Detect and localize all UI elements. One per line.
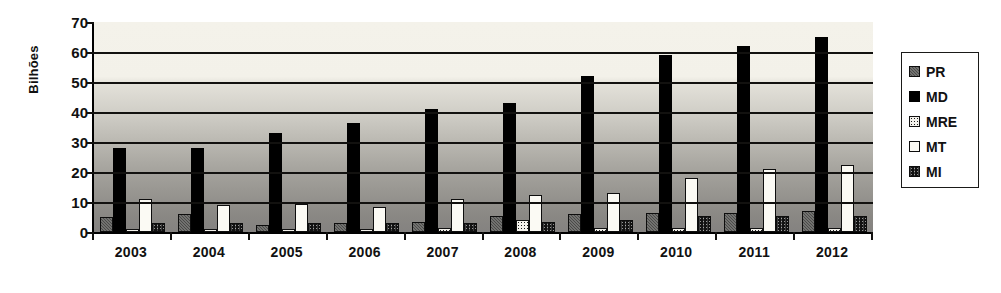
x-tick-mark (248, 232, 250, 240)
gridline (94, 172, 873, 174)
x-tick-mark (170, 232, 172, 240)
legend-label: MT (926, 140, 946, 154)
bar-mi-2007[interactable] (464, 223, 477, 232)
x-tick-mark (637, 232, 639, 240)
bar-md-2003[interactable] (113, 148, 126, 232)
bar-pr-2011[interactable] (724, 213, 737, 233)
bar-mi-2003[interactable] (152, 223, 165, 232)
y-tick-label: 20 (71, 165, 88, 180)
bar-pr-2006[interactable] (334, 223, 347, 232)
legend-label: MI (926, 165, 942, 179)
x-tick-mark (92, 232, 94, 240)
x-tick-mark (871, 232, 873, 240)
x-tick-mark (559, 232, 561, 240)
y-axis-title: Bilhões (26, 15, 41, 125)
y-tick-mark (87, 112, 94, 114)
bar-mt-2004[interactable] (217, 205, 230, 232)
x-tick-label: 2003 (92, 244, 170, 260)
y-tick-label: 60 (71, 45, 88, 60)
y-tick-label: 70 (71, 15, 88, 30)
x-axis-labels: 2003200420052006200720082009201020112012 (92, 244, 871, 260)
bar-md-2008[interactable] (503, 103, 516, 232)
legend-item-md[interactable]: MD (909, 84, 978, 109)
x-tick-label: 2009 (559, 244, 637, 260)
legend-swatch-icon (909, 166, 920, 177)
y-tick-label: 40 (71, 105, 88, 120)
y-tick-mark (87, 82, 94, 84)
x-tick-label: 2012 (793, 244, 871, 260)
x-tick-label: 2005 (248, 244, 326, 260)
bar-md-2009[interactable] (581, 76, 594, 232)
legend-item-mre[interactable]: MRE (909, 109, 978, 134)
bar-pr-2005[interactable] (256, 225, 269, 233)
bar-mt-2005[interactable] (295, 204, 308, 233)
x-tick-label: 2004 (170, 244, 248, 260)
legend-item-pr[interactable]: PR (909, 59, 978, 84)
bar-pr-2008[interactable] (490, 216, 503, 233)
bar-mi-2011[interactable] (776, 216, 789, 233)
bar-pr-2009[interactable] (568, 214, 581, 232)
bar-mi-2006[interactable] (386, 223, 399, 232)
y-tick-mark (87, 172, 94, 174)
bar-pr-2003[interactable] (100, 217, 113, 232)
x-tick-mark (404, 232, 406, 240)
x-tick-mark (326, 232, 328, 240)
x-tick-mark (715, 232, 717, 240)
legend-item-mt[interactable]: MT (909, 134, 978, 159)
x-tick-label: 2007 (404, 244, 482, 260)
x-axis-tick-marks (92, 232, 871, 242)
legend-label: MRE (926, 115, 957, 129)
bar-md-2005[interactable] (269, 133, 282, 232)
bar-pr-2012[interactable] (802, 211, 815, 232)
y-axis-tick-labels: 706050403020100 (55, 0, 88, 293)
bar-pr-2004[interactable] (178, 214, 191, 232)
x-tick-label: 2006 (326, 244, 404, 260)
y-tick-label: 50 (71, 75, 88, 90)
gridline (94, 202, 873, 204)
y-tick-mark (87, 22, 94, 24)
y-tick-label: 30 (71, 135, 88, 150)
x-tick-label: 2010 (637, 244, 715, 260)
gridline (94, 82, 873, 84)
y-tick-mark (87, 202, 94, 204)
bar-mi-2012[interactable] (854, 216, 867, 233)
x-tick-label: 2011 (715, 244, 793, 260)
gridline (94, 112, 873, 114)
bar-mi-2009[interactable] (620, 220, 633, 232)
gridline (94, 52, 873, 54)
bar-mi-2004[interactable] (230, 223, 243, 232)
legend-swatch-icon (909, 116, 920, 127)
plot-area (92, 22, 873, 234)
bar-pr-2010[interactable] (646, 213, 659, 233)
bar-mi-2010[interactable] (698, 216, 711, 233)
chart-legend: PRMDMREMTMI (901, 52, 979, 188)
bar-pr-2007[interactable] (412, 222, 425, 233)
bar-md-2011[interactable] (737, 46, 750, 232)
gridline (94, 142, 873, 144)
bar-md-2007[interactable] (425, 109, 438, 232)
legend-swatch-icon (909, 141, 920, 152)
chart-container: Bilhões 706050403020100 2003200420052006… (0, 0, 1001, 293)
bar-mi-2008[interactable] (542, 222, 555, 233)
x-tick-mark (482, 232, 484, 240)
bar-mt-2010[interactable] (685, 178, 698, 232)
bar-md-2006[interactable] (347, 123, 360, 233)
y-tick-label: 10 (71, 195, 88, 210)
legend-item-mi[interactable]: MI (909, 159, 978, 184)
bar-mt-2012[interactable] (841, 165, 854, 233)
bar-mt-2008[interactable] (529, 195, 542, 233)
legend-swatch-icon (909, 66, 920, 77)
bar-mi-2005[interactable] (308, 223, 321, 232)
bar-md-2004[interactable] (191, 148, 204, 232)
y-tick-mark (87, 52, 94, 54)
bar-mt-2009[interactable] (607, 193, 620, 232)
x-tick-mark (793, 232, 795, 240)
y-tick-mark (87, 142, 94, 144)
legend-swatch-icon (909, 91, 920, 102)
bar-mt-2011[interactable] (763, 169, 776, 232)
legend-label: MD (926, 90, 948, 104)
x-tick-label: 2008 (482, 244, 560, 260)
bar-mre-2008[interactable] (516, 220, 529, 232)
legend-label: PR (926, 65, 945, 79)
bar-mt-2006[interactable] (373, 207, 386, 233)
